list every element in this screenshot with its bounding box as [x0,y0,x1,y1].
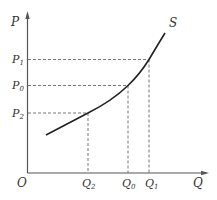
quantity-label-q0: Q0 [122,177,136,191]
supply-diagram: S P Q O P1 P0 P2 Q2 Q0 Q1 [0,0,217,200]
x-axis-label: Q [193,176,203,190]
price-label-p1: P1 [11,53,24,67]
price-label-p0: P0 [11,79,24,93]
quantity-label-q2: Q2 [82,177,96,191]
price-label-p2: P2 [11,107,24,121]
curve-label-s: S [169,16,177,30]
origin-label: O [17,176,27,190]
y-axis-arrow-icon [25,11,29,19]
quantity-label-q1: Q1 [145,177,159,191]
supply-curve [46,33,165,135]
x-axis-arrow-icon [201,171,209,175]
y-axis-label: P [10,15,20,29]
